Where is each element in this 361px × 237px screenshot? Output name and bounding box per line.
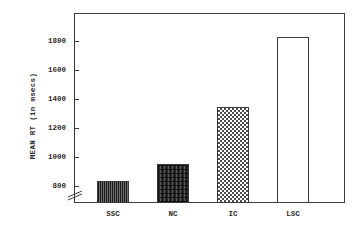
bar-lsc	[277, 37, 309, 203]
x-label-ic: IC	[203, 210, 263, 218]
x-label-lsc: LSC	[263, 210, 323, 218]
y-tick-label-1200: 1200	[32, 124, 66, 132]
bar-ic	[217, 107, 249, 203]
bar-chart: MEAN RT (in msecs) 1800 1600 1400 1200 1…	[0, 0, 361, 237]
y-tick-label-1400: 1400	[32, 95, 66, 103]
y-axis-tick-labels: 1800 1600 1400 1200 1000 800	[26, 0, 66, 237]
bar-nc	[157, 164, 189, 203]
bar-ssc	[97, 181, 129, 203]
y-tick-label-1000: 1000	[32, 153, 66, 161]
x-label-nc: NC	[143, 210, 203, 218]
y-tick-label-1600: 1600	[32, 66, 66, 74]
x-axis-category-labels: SSC NC IC LSC	[74, 210, 345, 224]
x-label-ssc: SSC	[83, 210, 143, 218]
y-tick-label-1800: 1800	[32, 37, 66, 45]
y-tick-label-800: 800	[32, 182, 66, 190]
bars-layer	[74, 13, 345, 203]
